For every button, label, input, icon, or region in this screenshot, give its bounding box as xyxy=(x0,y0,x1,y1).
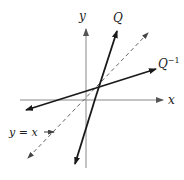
inverse-function-diagram: y x Q Q−1 y = x xyxy=(0,0,184,180)
q-line xyxy=(75,31,117,164)
q-inverse-label: Q−1 xyxy=(158,56,180,71)
identity-line xyxy=(28,33,148,158)
x-axis-label: x xyxy=(168,93,175,107)
y-axis-label: y xyxy=(78,9,86,23)
q-inverse-line xyxy=(26,69,156,110)
q-label: Q xyxy=(113,11,123,25)
identity-label: y = x xyxy=(8,126,38,139)
